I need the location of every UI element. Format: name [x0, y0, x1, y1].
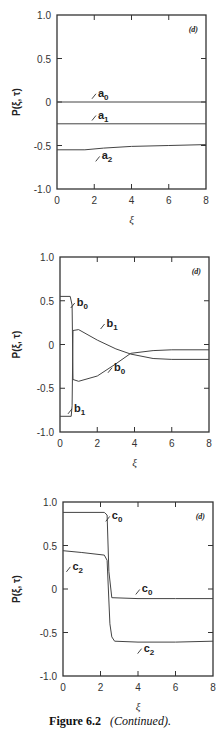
y-tick-label: -1.0 [34, 184, 52, 195]
series-line-b0 [60, 296, 209, 381]
plot-frame [60, 257, 209, 432]
series-label-b0: b0 [77, 296, 89, 311]
caption-text: (Continued). [110, 714, 171, 728]
series-label-b1: b1 [74, 402, 86, 417]
x-tick-label: 4 [132, 438, 138, 449]
series-label-b0: b0 [114, 361, 126, 376]
y-tick-label: 0.5 [37, 54, 51, 65]
series-label-c0: c0 [112, 509, 123, 524]
series-label-b1: b1 [107, 317, 119, 332]
x-tick-label: 4 [129, 195, 135, 206]
figure-canvas: 024681.00.50-0.5-1.0ξP(ξ, τ)(d)a0a1a2024… [0, 0, 220, 732]
y-axis-label: P(ξ, τ) [11, 575, 23, 603]
y-tick-label: 1.0 [43, 497, 57, 508]
y-axis-label: P(ξ, τ) [11, 88, 23, 116]
x-tick-label: 4 [135, 682, 141, 693]
y-axis-label: P(ξ, τ) [11, 331, 23, 359]
series-line-a2 [57, 145, 206, 150]
x-tick-label: 8 [206, 438, 212, 449]
x-tick-label: 0 [60, 682, 66, 693]
x-axis-label: ξ [129, 213, 134, 226]
x-tick-label: 6 [173, 682, 179, 693]
x-axis-label: ξ [136, 700, 141, 713]
y-tick-label: -0.5 [40, 628, 58, 639]
series-label-c2: c2 [72, 560, 83, 575]
y-tick-label: -1.0 [40, 671, 58, 682]
series-label-c2: c2 [144, 642, 155, 657]
chart-top: 024681.00.50-0.5-1.0ξP(ξ, τ)(d)a0a1a2 [11, 10, 209, 226]
plot-frame [63, 502, 213, 676]
x-tick-label: 0 [57, 438, 63, 449]
y-tick-label: 0.5 [43, 541, 57, 552]
chart-bottom: 024681.00.50-0.5-1.0ξP(ξ, τ)(d)c0c2c0c2 [11, 497, 216, 713]
figure-caption: Figure 6.2 (Continued). [0, 714, 220, 729]
x-tick-label: 6 [169, 438, 175, 449]
series-label-c0: c0 [142, 582, 153, 597]
series-line-c0 [63, 512, 213, 598]
series-label-a0: a0 [98, 87, 109, 102]
x-tick-label: 2 [94, 438, 100, 449]
y-tick-label: -0.5 [34, 141, 52, 152]
panel-label: (d) [192, 267, 202, 276]
series-line-c2 [63, 551, 213, 642]
y-tick-label: -1.0 [37, 427, 55, 438]
x-tick-label: 0 [54, 195, 60, 206]
y-tick-label: -0.5 [37, 383, 55, 394]
series-line-b1 [60, 330, 209, 417]
x-tick-label: 2 [98, 682, 104, 693]
x-tick-label: 6 [166, 195, 172, 206]
y-tick-label: 0 [51, 584, 57, 595]
chart-middle: 024681.00.50-0.5-1.0ξP(ξ, τ)(d)b0b1b0b1 [11, 252, 212, 469]
y-tick-label: 0 [48, 340, 54, 351]
x-axis-label: ξ [132, 456, 137, 469]
caption-label: Figure 6.2 [49, 714, 101, 728]
series-label-a2: a2 [102, 149, 113, 164]
series-label-a1: a1 [98, 109, 109, 124]
y-tick-label: 1.0 [40, 252, 54, 263]
x-tick-label: 8 [210, 682, 216, 693]
x-tick-label: 2 [91, 195, 97, 206]
panel-label: (d) [189, 25, 199, 34]
x-tick-label: 8 [203, 195, 209, 206]
y-tick-label: 0 [45, 97, 51, 108]
y-tick-label: 0.5 [40, 296, 54, 307]
y-tick-label: 1.0 [37, 10, 51, 21]
panel-label: (d) [196, 512, 206, 521]
